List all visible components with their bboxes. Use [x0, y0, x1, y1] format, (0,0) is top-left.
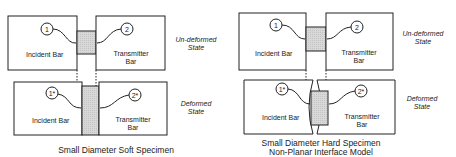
specimen [311, 91, 328, 125]
label-bar: Bar [126, 58, 138, 65]
state-label: State [188, 108, 204, 115]
specimen [82, 86, 99, 135]
state-label: Deformed [181, 100, 213, 107]
gauge-1-label: 1* [49, 90, 56, 97]
label-bar: Bar [128, 124, 140, 131]
label-incident-bar: Incident Bar [262, 114, 300, 121]
label-transmitter: Transmitter [344, 113, 380, 120]
split-hopkinson-bar-diagram: Incident Bar Transmitter Bar 1 2 Inciden… [0, 0, 456, 157]
label-transmitter: Transmitter [341, 49, 377, 56]
label-bar: Bar [354, 57, 366, 64]
caption: Non-Planar Interface Model [269, 147, 373, 157]
incident-bar [8, 16, 77, 70]
gauge-1-label: 1 [274, 22, 278, 29]
specimen [306, 27, 326, 51]
state-label: State [188, 44, 204, 51]
gauge-2-label: 2 [125, 26, 129, 33]
state-label: Un-deformed [403, 30, 445, 37]
state-label: State [414, 103, 430, 110]
label-bar: Bar [357, 121, 369, 128]
label-incident-bar: Incident Bar [32, 117, 70, 124]
gauge-2-label: 2 [355, 24, 359, 31]
label-transmitter: Transmitter [115, 116, 151, 123]
state-label: State [415, 38, 431, 45]
state-label: Un-deformed [176, 36, 218, 43]
caption: Small Diameter Soft Specimen [58, 145, 174, 155]
label-incident-bar: Incident Bar [255, 50, 293, 57]
gauge-1-label: 1* [279, 86, 286, 93]
state-label: Deformed [407, 95, 439, 102]
gauge-1-label: 1 [45, 26, 49, 33]
label-transmitter: Transmitter [113, 50, 149, 57]
label-incident-bar: Incident Bar [26, 51, 64, 58]
specimen [77, 31, 96, 54]
gauge-2-label: 2* [132, 92, 139, 99]
gauge-2-label: 2* [358, 88, 365, 95]
